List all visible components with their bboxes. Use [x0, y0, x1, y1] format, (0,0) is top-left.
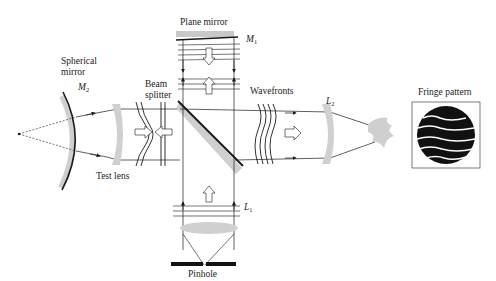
lens-l1 — [180, 222, 238, 234]
test-lens-label: Test lens — [96, 171, 129, 182]
mirror-arrows — [203, 48, 215, 94]
interferometer-diagram: Plane mirror M1 Sphericalmirror M2 Beams… — [0, 0, 496, 281]
l2-sub: 2 — [331, 100, 334, 107]
right-wavefronts — [255, 104, 276, 164]
m1-sub: 1 — [254, 38, 257, 45]
fringe-pattern — [412, 102, 480, 168]
fringe-pattern-label: Fringe pattern — [418, 87, 472, 98]
pinhole-rays — [183, 234, 234, 265]
up-arrow — [203, 186, 215, 202]
m1-main: M — [246, 34, 254, 44]
m2-sub: 2 — [86, 86, 89, 93]
beam-splitter-label: Beamsplitter — [145, 79, 171, 101]
l1-sub: 1 — [249, 206, 252, 213]
spherical-line2: mirror — [61, 67, 85, 77]
plane-mirror — [176, 31, 238, 40]
m2-label: M2 — [78, 82, 89, 95]
beam-line2: splitter — [145, 90, 171, 100]
focal-rays — [18, 117, 76, 151]
wavefronts-label: Wavefronts — [250, 86, 294, 97]
right-arrow — [285, 126, 301, 140]
m2-main: M — [78, 82, 86, 92]
spherical-mirror — [61, 92, 75, 190]
m1-label: M1 — [246, 34, 257, 47]
l2-label: L2 — [326, 96, 335, 109]
spherical-line1: Spherical — [61, 56, 97, 66]
beam-splitter — [176, 101, 243, 174]
pinhole-label: Pinhole — [188, 269, 217, 280]
plane-mirror-label: Plane mirror — [180, 17, 228, 28]
l1-label: L1 — [244, 202, 253, 215]
spherical-mirror-label: Sphericalmirror — [61, 56, 97, 78]
vertical-rays — [183, 38, 234, 250]
converging-arrows — [135, 126, 172, 138]
beam-line1: Beam — [145, 79, 167, 89]
test-lens — [112, 104, 123, 165]
